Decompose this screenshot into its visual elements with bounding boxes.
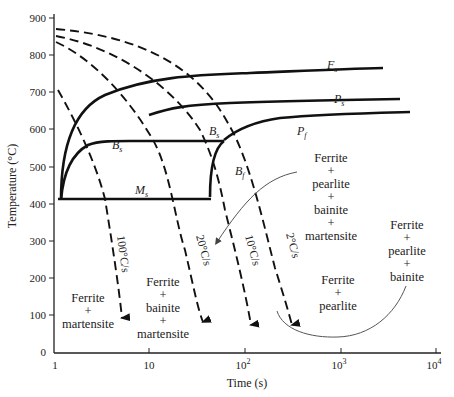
svg-text:+: + [327, 164, 334, 178]
y-tick-200: 200 [30, 272, 47, 284]
label-ps: Ps [333, 92, 344, 108]
region-ferrite-pearlite-bainite-martensite: Ferrite + pearlite + bainite + martensit… [305, 151, 358, 243]
y-ticks [49, 18, 54, 315]
svg-text:bainite: bainite [314, 203, 348, 217]
cooling-curve-20 [56, 42, 203, 322]
cct-diagram: 0 100 200 300 400 500 600 700 800 900 1 … [0, 0, 454, 397]
svg-text:+: + [159, 314, 166, 328]
label-pf: Pf [296, 124, 308, 140]
svg-text:martensite: martensite [62, 317, 115, 331]
x-tick-1000: 103 [332, 357, 347, 371]
svg-text:Ferrite: Ferrite [390, 218, 424, 232]
svg-text:Ferrite: Ferrite [71, 291, 105, 305]
region-ferrite-pearlite: Ferrite + pearlite [319, 273, 357, 313]
svg-text:+: + [327, 190, 334, 204]
y-tick-900: 900 [30, 12, 47, 24]
svg-text:Ferrite: Ferrite [321, 273, 355, 287]
svg-text:+: + [327, 216, 334, 230]
label-bf: Bf [235, 164, 246, 180]
y-tick-400: 400 [30, 198, 47, 210]
svg-text:martensite: martensite [305, 229, 358, 243]
y-tick-labels: 0 100 200 300 400 500 600 700 800 900 [30, 12, 47, 358]
x-tick-1: 1 [52, 359, 58, 371]
y-tick-300: 300 [30, 235, 47, 247]
x-tick-10000: 104 [427, 357, 442, 371]
svg-text:pearlite: pearlite [319, 299, 357, 313]
svg-text:pearlite: pearlite [312, 177, 350, 191]
svg-text:pearlite: pearlite [388, 244, 426, 258]
y-tick-700: 700 [30, 86, 47, 98]
svg-text:+: + [159, 288, 166, 302]
y-tick-800: 800 [30, 49, 47, 61]
cooling-curve-100 [58, 90, 122, 318]
region-ferrite-martensite: Ferrite + martensite [62, 291, 115, 331]
pointer-arrows [217, 172, 406, 337]
x-tick-10: 10 [144, 359, 156, 371]
svg-text:Ferrite: Ferrite [314, 151, 348, 165]
rate-label-2: 2°C/s [284, 231, 302, 259]
y-tick-600: 600 [30, 123, 47, 135]
region-ferrite-pearlite-bainite: Ferrite + pearlite + bainite [388, 218, 426, 284]
pointer-arrow-fpbm [217, 172, 297, 242]
y-tick-100: 100 [30, 309, 47, 321]
label-ms: Ms [134, 183, 148, 199]
y-tick-0: 0 [41, 346, 47, 358]
region-ferrite-bainite-martensite: Ferrite + bainite + martensite [137, 275, 190, 341]
y-axis-title: Temperature (°C) [5, 144, 19, 228]
svg-text:+: + [403, 257, 410, 271]
bf-curve [210, 141, 224, 197]
x-axis-title: Time (s) [227, 376, 268, 390]
svg-text:bainite: bainite [390, 270, 424, 284]
svg-text:bainite: bainite [146, 301, 180, 315]
y-tick-500: 500 [30, 161, 47, 173]
svg-text:Ferrite: Ferrite [146, 275, 180, 289]
svg-text:+: + [84, 304, 91, 318]
x-tick-labels: 1 10 102 103 104 [52, 357, 441, 371]
x-tick-100: 102 [236, 357, 251, 371]
label-bs-top: Bs [209, 124, 219, 140]
svg-text:martensite: martensite [137, 327, 190, 341]
rate-label-100: 100°C/s [115, 235, 132, 274]
label-fs: Fs [326, 58, 337, 74]
svg-text:+: + [334, 286, 341, 300]
svg-text:+: + [403, 231, 410, 245]
x-ticks [149, 348, 436, 353]
rate-label-20: 20°C/s [194, 233, 214, 267]
pf-curve [224, 112, 410, 140]
rate-label-10: 10°C/s [243, 233, 263, 267]
